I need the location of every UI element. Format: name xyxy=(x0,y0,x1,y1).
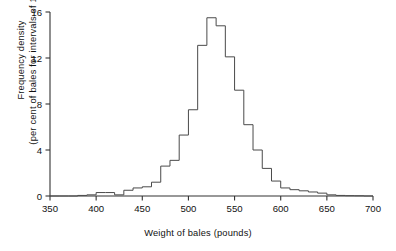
x-tick-label: 500 xyxy=(180,203,196,214)
x-tick-label: 450 xyxy=(134,203,150,214)
axis-lines xyxy=(50,12,373,196)
histogram-outline xyxy=(50,18,373,196)
y-tick-label: 12 xyxy=(20,53,42,64)
plot-area xyxy=(0,0,396,251)
y-tick-label: 4 xyxy=(20,145,42,156)
y-axis-ticks xyxy=(46,12,51,196)
y-tick-label: 8 xyxy=(20,99,42,110)
x-tick-label: 650 xyxy=(319,203,335,214)
histogram-chart: Frequency density (per cent of bales for… xyxy=(0,0,396,251)
y-tick-label: 16 xyxy=(20,7,42,18)
y-tick-label: 0 xyxy=(20,191,42,202)
x-tick-label: 400 xyxy=(88,203,104,214)
x-tick-label: 550 xyxy=(227,203,243,214)
x-axis-ticks xyxy=(50,196,373,201)
x-tick-label: 600 xyxy=(273,203,289,214)
x-tick-label: 700 xyxy=(365,203,381,214)
x-tick-label: 350 xyxy=(42,203,58,214)
x-axis-label: Weight of bales (pounds) xyxy=(0,228,396,238)
